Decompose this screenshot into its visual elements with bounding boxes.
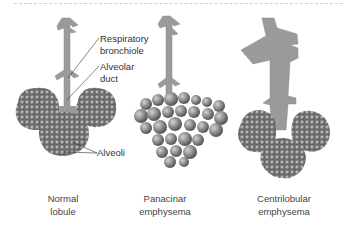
caption-line: lobule — [18, 205, 108, 218]
caption-panacinar: Panacinar emphysema — [120, 192, 210, 218]
label-line: Alveolar — [100, 61, 134, 73]
caption-line: Centrilobular — [239, 192, 329, 205]
respiratory-bronchiole-leader — [68, 38, 99, 78]
respiratory-bronchiole-label: Respiratory bronchiole — [100, 33, 149, 57]
label-line: bronchiole — [100, 45, 149, 57]
caption-line: emphysema — [239, 205, 329, 218]
alveolar-duct-label: Alveolar duct — [100, 61, 134, 85]
label-line: duct — [100, 73, 134, 85]
panacinar-airway — [158, 16, 180, 98]
label-line: Respiratory — [100, 33, 149, 45]
caption-line: Panacinar — [120, 192, 210, 205]
caption-line: emphysema — [120, 205, 210, 218]
normal-airway — [55, 18, 79, 112]
caption-line: Normal — [18, 192, 108, 205]
alveoli-label: Alveoli — [97, 147, 125, 159]
caption-normal-lobule: Normal lobule — [18, 192, 108, 218]
caption-centrilobular: Centrilobular emphysema — [239, 192, 329, 218]
centrilobular-illustration — [238, 18, 330, 178]
